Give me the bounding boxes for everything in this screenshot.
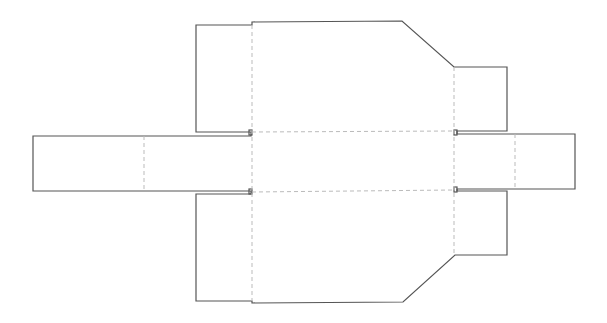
fold-line-upper-horizontal (252, 131, 454, 132)
outer-cut-line (33, 21, 575, 303)
dieline-diagram (0, 0, 607, 323)
dieline-svg (0, 0, 607, 323)
fold-line-lower-horizontal (252, 190, 454, 192)
